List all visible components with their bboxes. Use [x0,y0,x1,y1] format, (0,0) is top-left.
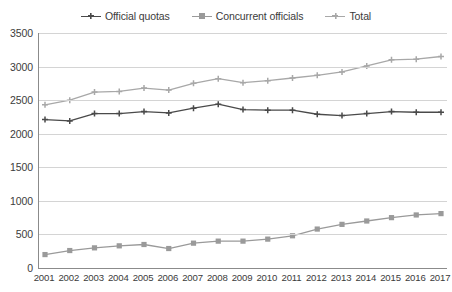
gridline [39,100,447,101]
legend-item-label: Official quotas [105,11,170,22]
data-point-marker [141,85,147,91]
y-axis-tick-label: 3000 [10,61,33,73]
data-point-marker [116,88,122,94]
y-axis: 0500100015002000250030003500 [0,26,36,292]
x-axis-tick-label: 2004 [108,272,129,283]
data-point-marker [389,57,395,63]
x-axis-tick-label: 2003 [83,272,104,283]
data-point-marker [438,211,443,216]
data-point-marker [42,252,47,257]
data-point-marker [92,245,97,250]
data-point-marker [438,109,444,115]
data-point-marker [215,76,221,82]
plot-wrapper: 0500100015002000250030003500 20012002200… [0,26,452,292]
x-axis-tick-label: 2001 [34,272,55,283]
data-point-marker [117,243,122,248]
gridline [39,167,447,168]
data-point-marker [166,246,171,251]
y-axis-tick-label: 2000 [10,128,33,140]
data-point-marker [438,54,444,60]
gridline [39,67,447,68]
data-point-marker [67,248,72,253]
data-point-marker [413,56,419,62]
y-axis-tick-label: 500 [16,228,33,240]
x-axis-tick-label: 2012 [306,272,327,283]
data-point-marker [92,89,98,95]
data-point-marker [116,111,122,117]
x-axis-tick-label: 2008 [207,272,228,283]
data-point-marker [290,75,296,81]
data-point-marker [290,107,296,113]
data-point-marker [141,109,147,115]
data-point-marker [413,109,419,115]
data-point-marker [339,113,345,119]
x-axis-tick-label: 2005 [133,272,154,283]
data-point-marker [240,80,246,86]
data-point-marker [314,111,320,117]
data-point-marker [141,242,146,247]
series-official-quotas [42,101,444,124]
x-axis-tick-label: 2007 [182,272,203,283]
x-axis-tick-label: 2002 [58,272,79,283]
line-chart: Official quotasConcurrent officialsTotal… [0,0,452,292]
gridline [39,201,447,202]
data-point-marker [389,215,394,220]
data-point-marker [315,226,320,231]
data-point-marker [191,241,196,246]
x-axis-tick-label: 2016 [405,272,426,283]
y-axis-tick-label: 3500 [10,27,33,39]
legend-item[interactable]: Official quotas [81,11,170,22]
legend-item-label: Total [349,11,371,22]
data-point-marker [314,72,320,78]
legend-plus-marker-icon [81,11,101,22]
data-point-marker [42,117,48,123]
x-axis-tick-label: 2009 [232,272,253,283]
gridline [39,33,447,34]
data-point-marker [339,69,345,75]
data-point-marker [265,107,271,113]
data-point-marker [92,111,98,117]
x-axis: 2001200220032004200520062007200820092010… [38,272,446,290]
x-axis-tick-label: 2017 [430,272,451,283]
data-point-marker [364,111,370,117]
plot-area [38,33,447,269]
legend-item[interactable]: Total [325,11,371,22]
y-axis-tick-label: 1000 [10,195,33,207]
legend-square-marker-icon [192,11,212,22]
data-point-marker [265,78,271,84]
data-point-marker [166,87,172,93]
data-point-marker [364,218,369,223]
x-axis-tick-label: 2010 [256,272,277,283]
x-axis-tick-label: 2011 [282,272,302,283]
data-point-marker [67,118,73,124]
data-point-marker [414,212,419,217]
data-point-marker [191,105,197,111]
legend-item[interactable]: Concurrent officials [192,11,304,22]
data-point-marker [389,109,395,115]
data-point-marker [265,237,270,242]
legend-item-label: Concurrent officials [216,11,304,22]
data-point-marker [166,110,172,116]
data-point-marker [216,239,221,244]
legend-plus-marker-icon [325,11,345,22]
y-axis-tick-label: 2500 [10,94,33,106]
data-point-marker [42,102,48,108]
x-axis-tick-label: 2006 [157,272,178,283]
x-axis-tick-label: 2013 [331,272,352,283]
y-axis-tick-label: 0 [27,262,33,274]
gridline [39,234,447,235]
data-point-marker [215,101,221,107]
data-point-marker [240,239,245,244]
x-axis-tick-label: 2014 [355,272,376,283]
data-point-marker [240,107,246,113]
gridline [39,134,447,135]
data-point-marker [339,222,344,227]
series-layer [39,33,447,268]
chart-legend: Official quotasConcurrent officialsTotal [0,6,452,26]
data-point-marker [191,80,197,86]
x-axis-tick-label: 2015 [380,272,401,283]
y-axis-tick-label: 1500 [10,161,33,173]
